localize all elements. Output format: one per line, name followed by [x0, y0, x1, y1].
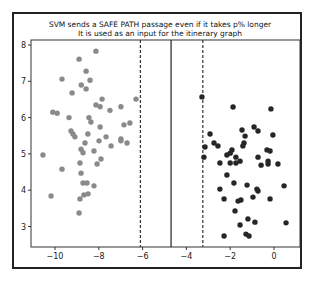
class-B-point	[250, 194, 255, 199]
class-B-point	[246, 233, 251, 238]
class-B-point	[255, 128, 260, 133]
class-B-point	[255, 188, 260, 193]
class-A-point	[91, 183, 96, 188]
class-B-point	[217, 186, 222, 191]
x-tick-label: −10	[47, 252, 64, 261]
class-A-point	[99, 96, 104, 101]
class-B-point	[207, 131, 212, 136]
class-B-point	[258, 162, 263, 167]
x-tick-label: −8	[93, 252, 105, 261]
class-A-point	[54, 111, 59, 116]
class-B-point	[283, 220, 288, 225]
class-A-point	[77, 196, 82, 201]
class-A-point	[66, 115, 71, 120]
class-A-point	[79, 82, 84, 87]
class-B-point	[267, 148, 272, 153]
class-B-point	[270, 132, 275, 137]
class-A-point	[80, 150, 85, 155]
class-A-point	[121, 122, 126, 127]
plot-area: −10−8−6−4−20345678	[21, 40, 300, 261]
class-A-point	[69, 90, 74, 95]
class-A-point	[83, 86, 88, 91]
class-A-point	[85, 131, 90, 136]
class-B-point	[244, 182, 249, 187]
y-tick-label: 6	[21, 114, 26, 123]
class-A-point	[103, 134, 108, 139]
class-A-point	[76, 210, 81, 215]
class-B-point	[221, 233, 226, 238]
x-tick-label: −6	[137, 252, 149, 261]
class-A-point	[40, 152, 45, 157]
class-B-point	[237, 222, 242, 227]
axes-box	[31, 40, 300, 247]
class-B-point	[275, 161, 280, 166]
class-B-point	[242, 133, 247, 138]
class-B-point	[215, 143, 220, 148]
class-B-point	[265, 161, 270, 166]
class-A-point	[94, 161, 99, 166]
class-A-point	[124, 140, 129, 145]
class-B-point	[281, 183, 286, 188]
class-A-point	[93, 48, 98, 53]
class-A-point	[118, 104, 123, 109]
y-tick-label: 5	[21, 150, 26, 159]
y-tick-label: 4	[21, 186, 26, 195]
class-B-point	[232, 208, 237, 213]
class-B-point	[217, 160, 222, 165]
class-A-point	[85, 191, 90, 196]
class-A-point	[83, 68, 88, 73]
class-B-point	[268, 106, 273, 111]
class-B-point	[231, 180, 236, 185]
x-tick-label: −4	[181, 252, 193, 261]
class-B-point	[240, 143, 245, 148]
class-B-point	[267, 196, 272, 201]
class-A-point	[48, 193, 53, 198]
class-A-point	[82, 140, 87, 145]
class-B-point	[230, 104, 235, 109]
class-B-point	[233, 154, 238, 159]
class-A-point	[59, 166, 64, 171]
scatter-chart: SVM sends a SAFE PATH passage even if it…	[0, 0, 316, 286]
class-B-point	[199, 94, 204, 99]
class-B-point	[239, 127, 244, 132]
y-tick-label: 3	[21, 223, 26, 232]
class-A-point	[107, 108, 112, 113]
class-A-point	[91, 148, 96, 153]
class-A-point	[97, 104, 102, 109]
class-A-point	[59, 76, 64, 81]
class-A-point	[98, 156, 103, 161]
class-B-point	[238, 197, 243, 202]
class-A-point	[133, 96, 138, 101]
class-A-point	[118, 138, 123, 143]
class-A-point	[76, 56, 81, 61]
class-A-point	[78, 170, 83, 175]
y-tick-label: 7	[21, 77, 26, 86]
class-A-point	[96, 138, 101, 143]
class-A-point	[77, 160, 82, 165]
class-B-point	[201, 154, 206, 159]
y-tick-label: 8	[21, 41, 26, 50]
class-B-point	[221, 196, 226, 201]
chart-subtitle: It is used as an input for the itinerary…	[78, 29, 242, 38]
class-A-point	[88, 119, 93, 124]
class-B-point	[202, 144, 207, 149]
class-A-point	[108, 143, 113, 148]
chart-title: SVM sends a SAFE PATH passage even if it…	[49, 20, 272, 29]
class-A-point	[84, 180, 89, 185]
class-B-point	[224, 172, 229, 177]
class-B-point	[228, 160, 233, 165]
class-B-point	[251, 124, 256, 129]
class-A-point	[127, 120, 132, 125]
class-B-point	[224, 152, 229, 157]
x-tick-label: 0	[271, 252, 276, 261]
class-B-point	[252, 219, 257, 224]
class-A-point	[97, 124, 102, 129]
class-B-point	[233, 160, 238, 165]
class-B-point	[245, 216, 250, 221]
class-B-point	[255, 154, 260, 159]
x-tick-label: −2	[224, 252, 236, 261]
class-A-point	[72, 134, 77, 139]
class-A-point	[87, 78, 92, 83]
